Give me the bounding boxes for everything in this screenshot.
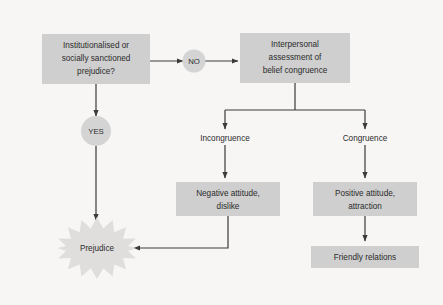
incongruence-label: Incongruence xyxy=(200,134,250,143)
node-assessment: Interpersonal assessment of belief congr… xyxy=(240,33,350,83)
question-line-3: prejudice? xyxy=(77,67,115,76)
positive-line-1: Positive attitude, xyxy=(335,189,395,198)
node-prejudice: Prejudice xyxy=(58,217,137,279)
edge-negative-to-prejudice xyxy=(134,216,228,248)
assessment-line-2: assessment of xyxy=(269,53,323,62)
question-line-2: socially sanctioned xyxy=(62,54,131,63)
flowchart-canvas: Prejudice Institutionalised or socially … xyxy=(0,0,443,305)
node-no: NO xyxy=(183,50,206,73)
node-friendly: Friendly relations xyxy=(311,246,419,268)
prejudice-label: Prejudice xyxy=(80,244,115,253)
yes-label: YES xyxy=(88,127,104,136)
friendly-label: Friendly relations xyxy=(334,253,396,262)
node-positive: Positive attitude, attraction xyxy=(313,182,417,216)
assessment-line-3: belief congruence xyxy=(263,66,328,75)
node-question: Institutionalised or socially sanctioned… xyxy=(42,34,150,84)
edge-assessment-split xyxy=(225,83,365,110)
negative-line-1: Negative attitude, xyxy=(196,189,260,198)
question-line-1: Institutionalised or xyxy=(63,41,129,50)
congruence-label: Congruence xyxy=(343,134,388,143)
positive-line-2: attraction xyxy=(348,202,382,211)
flowchart-svg: Prejudice Institutionalised or socially … xyxy=(0,0,443,305)
assessment-line-1: Interpersonal xyxy=(271,40,319,49)
negative-line-2: dislike xyxy=(217,202,240,211)
no-label: NO xyxy=(188,57,200,66)
node-negative: Negative attitude, dislike xyxy=(176,182,280,216)
node-yes: YES xyxy=(81,116,111,146)
